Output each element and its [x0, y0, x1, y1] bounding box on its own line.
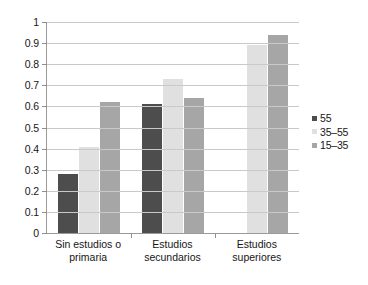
legend-swatch-icon: [312, 143, 317, 148]
category-label-line: secundarios: [130, 251, 214, 264]
bar[interactable]: [142, 104, 162, 233]
category-label-line: Estudios: [130, 238, 214, 251]
bar-chart: 10.90.80.70.60.50.40.30.20.10 Sin estudi…: [0, 0, 368, 285]
category-label-line: Estudios: [215, 238, 299, 251]
scan-bleed-text: [8, 272, 360, 280]
y-axis-tick-label: 0.2: [25, 185, 39, 197]
gridline: [47, 106, 299, 107]
y-axis-tick: [42, 233, 47, 234]
y-axis-tick: [42, 149, 47, 150]
bar[interactable]: [100, 102, 120, 233]
y-axis-tick: [42, 170, 47, 171]
gridline: [47, 85, 299, 86]
plot-area: 10.90.80.70.60.50.40.30.20.10: [46, 22, 299, 234]
y-axis-tick-label: 0.9: [25, 37, 39, 49]
y-axis-tick: [42, 191, 47, 192]
bar[interactable]: [58, 174, 78, 233]
y-axis-tick: [42, 85, 47, 86]
y-axis-tick-label: 0: [33, 227, 39, 239]
chart-legend: 5535–5515–35: [312, 112, 348, 153]
category-label-line: superiores: [215, 251, 299, 264]
bar[interactable]: [163, 79, 183, 233]
legend-item[interactable]: 35–55: [312, 126, 348, 139]
gridline: [47, 128, 299, 129]
y-axis-tick-label: 0.5: [25, 122, 39, 134]
y-axis-tick: [42, 106, 47, 107]
legend-item[interactable]: 15–35: [312, 139, 348, 152]
legend-item[interactable]: 55: [312, 112, 348, 125]
gridline: [47, 212, 299, 213]
gridline: [47, 149, 299, 150]
y-axis-tick-label: 1: [33, 16, 39, 28]
bar[interactable]: [247, 45, 267, 233]
legend-item-label: 15–35: [320, 139, 348, 152]
y-axis-tick: [42, 128, 47, 129]
category-label: Sin estudios oprimaria: [46, 238, 130, 263]
legend-swatch-icon: [312, 129, 317, 134]
category-label-line: Sin estudios o: [46, 238, 130, 251]
gridline: [47, 22, 299, 23]
y-axis-tick: [42, 212, 47, 213]
y-axis-tick: [42, 43, 47, 44]
gridline: [47, 170, 299, 171]
y-axis-tick-label: 0.3: [25, 164, 39, 176]
y-axis-tick-label: 0.8: [25, 58, 39, 70]
category-label: Estudiossecundarios: [130, 238, 214, 263]
legend-swatch-icon: [312, 116, 317, 121]
gridline: [47, 191, 299, 192]
bar[interactable]: [79, 147, 99, 234]
legend-item-label: 35–55: [320, 126, 348, 139]
y-axis-tick: [42, 22, 47, 23]
category-label-line: primaria: [46, 251, 130, 264]
gridline: [47, 43, 299, 44]
y-axis-tick-label: 0.7: [25, 79, 39, 91]
y-axis-tick-label: 0.1: [25, 206, 39, 218]
legend-item-label: 55: [320, 112, 331, 125]
category-label: Estudiossuperiores: [215, 238, 299, 263]
y-axis-tick-label: 0.4: [25, 143, 39, 155]
category-axis-labels: Sin estudios oprimariaEstudiossecundario…: [46, 238, 299, 263]
gridline: [47, 64, 299, 65]
y-axis-tick: [42, 64, 47, 65]
y-axis-tick-label: 0.6: [25, 100, 39, 112]
